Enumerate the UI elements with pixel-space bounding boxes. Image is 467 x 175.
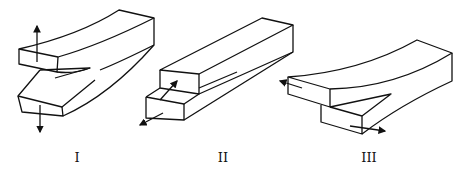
- mode-2-label: II: [218, 150, 228, 165]
- fracture-modes-diagram: [0, 0, 467, 175]
- mode-2-specimen: [140, 18, 293, 125]
- mode-1-label: I: [74, 150, 79, 165]
- mode-3-label: III: [361, 150, 376, 165]
- mode-1-specimen: [18, 10, 154, 132]
- mode-3-specimen: [280, 40, 452, 134]
